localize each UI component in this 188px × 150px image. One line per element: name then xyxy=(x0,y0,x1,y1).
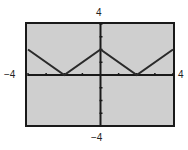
graph-plot xyxy=(0,0,188,150)
ymax-label: 4 xyxy=(96,8,102,18)
axes xyxy=(28,24,173,126)
xmax-label: 4 xyxy=(178,70,184,80)
ymin-label: −4 xyxy=(91,133,102,143)
xmin-label: −4 xyxy=(4,70,15,80)
